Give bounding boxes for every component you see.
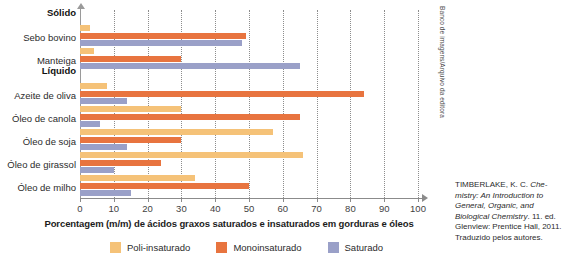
- chart-legend: Poli-insaturado Monoinsaturado Saturado: [110, 242, 383, 253]
- x-axis-title: Porcentagem (m/m) de ácidos graxos satur…: [24, 218, 434, 229]
- legend-label-mono: Monoinsaturado: [233, 242, 301, 253]
- bar--leo-de-girassol-sat: [80, 167, 114, 173]
- source-line1: TIMBERLAKE, K. C.: [455, 180, 530, 189]
- category-label-sebo-bovino: Sebo bovino: [23, 33, 76, 43]
- bar-sebo-bovino-mono: [80, 33, 246, 39]
- side-credit-text: Banco de imagens/Arquivo da editora: [439, 6, 446, 116]
- tick-mark-50: [249, 198, 250, 202]
- tick-mark-100: [418, 198, 419, 202]
- source-line3: Glenview: Prentice: [455, 222, 522, 231]
- gridline-60: [283, 10, 285, 198]
- tick-mark-70: [317, 198, 318, 202]
- bar-manteiga-poli: [80, 48, 94, 54]
- legend-label-poli: Poli-insaturado: [127, 242, 190, 253]
- bar--leo-de-soja-sat: [80, 144, 127, 150]
- legend-swatch-mono-icon: [216, 242, 227, 253]
- bar--leo-de-milho-poli: [80, 175, 195, 181]
- x-axis-arrow-icon: [422, 194, 428, 202]
- tick-label-30: 30: [176, 203, 187, 214]
- gridline-50: [249, 10, 251, 198]
- bar--leo-de-canola-mono: [80, 114, 300, 120]
- legend-swatch-poli-icon: [110, 242, 121, 253]
- tick-mark-30: [181, 198, 182, 202]
- source-italic2: mistry: An Introduction: [455, 191, 534, 200]
- category-label--leo-de-soja: Óleo de soja: [23, 137, 76, 147]
- source-line5: pelos autores.: [493, 233, 543, 242]
- legend-item-sat: Saturado: [328, 242, 384, 253]
- legend-label-sat: Saturado: [345, 242, 384, 253]
- tick-label-50: 50: [244, 203, 255, 214]
- x-axis-line: [80, 198, 424, 199]
- category-label--leo-de-girassol: Óleo de girassol: [7, 160, 76, 170]
- bar--leo-de-canola-poli: [80, 106, 181, 112]
- bar--leo-de-soja-mono: [80, 137, 181, 143]
- category-label--leo-de-milho: Óleo de milho: [17, 183, 76, 193]
- tick-mark-10: [114, 198, 115, 202]
- source-caption: TIMBERLAKE, K. C. Che- mistry: An Introd…: [455, 180, 570, 243]
- gridline-100: [418, 10, 420, 198]
- tick-label-90: 90: [379, 203, 390, 214]
- bar-chart-figure: 0102030405060708090100 Sebo bovinoMantei…: [0, 0, 574, 263]
- gridline-70: [317, 10, 319, 198]
- tick-mark-40: [215, 198, 216, 202]
- tick-label-10: 10: [109, 203, 120, 214]
- bar-sebo-bovino-poli: [80, 25, 90, 31]
- category-label--leo-de-canola: Óleo de canola: [12, 114, 76, 124]
- tick-label-40: 40: [210, 203, 221, 214]
- bar-azeite-de-oliva-poli: [80, 83, 107, 89]
- category-label-azeite-de-oliva: Azeite de oliva: [14, 91, 76, 101]
- gridline-90: [384, 10, 386, 198]
- tick-mark-60: [283, 198, 284, 202]
- tick-mark-20: [148, 198, 149, 202]
- group-header-l-quido: Líquido: [42, 66, 76, 76]
- tick-label-0: 0: [77, 203, 82, 214]
- tick-label-70: 70: [311, 203, 322, 214]
- tick-label-60: 60: [278, 203, 289, 214]
- tick-mark-90: [384, 198, 385, 202]
- bar--leo-de-canola-sat: [80, 121, 100, 127]
- category-label-manteiga: Manteiga: [37, 56, 76, 66]
- bar--leo-de-girassol-mono: [80, 160, 161, 166]
- bar-manteiga-mono: [80, 56, 181, 62]
- tick-label-20: 20: [142, 203, 153, 214]
- tick-label-100: 100: [410, 203, 426, 214]
- bar-azeite-de-oliva-sat: [80, 98, 127, 104]
- tick-mark-80: [350, 198, 351, 202]
- bar-manteiga-sat: [80, 63, 300, 69]
- legend-item-mono: Monoinsaturado: [216, 242, 301, 253]
- source-italic1: Che-: [530, 180, 547, 189]
- bar-sebo-bovino-sat: [80, 40, 242, 46]
- source-line2: . 11. ed.: [527, 212, 555, 221]
- bar--leo-de-soja-poli: [80, 129, 273, 135]
- y-axis-arrow-icon: [77, 3, 85, 9]
- bar-azeite-de-oliva-mono: [80, 91, 364, 97]
- bar--leo-de-girassol-poli: [80, 152, 303, 158]
- source-italic4: Biological Chemistry: [455, 212, 527, 221]
- tick-label-80: 80: [345, 203, 356, 214]
- gridline-80: [350, 10, 352, 198]
- bar--leo-de-milho-mono: [80, 183, 249, 189]
- tick-mark-0: [80, 198, 81, 202]
- group-header-s-lido: Sólido: [47, 8, 76, 18]
- bar--leo-de-milho-sat: [80, 190, 131, 196]
- legend-item-poli: Poli-insaturado: [110, 242, 190, 253]
- legend-swatch-sat-icon: [328, 242, 339, 253]
